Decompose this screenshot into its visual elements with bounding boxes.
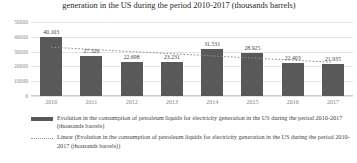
legend-item-bar[interactable]: Evolution in the consumption of petroleu… <box>31 114 351 130</box>
x-axis: 20102011201220132014201520162017 <box>31 98 353 106</box>
bar-value-label: 31.531 <box>204 41 220 47</box>
bar-value-label: 40.103 <box>43 29 59 35</box>
bar-value-label: 23.231 <box>164 54 180 60</box>
bar-value-label: 28.925 <box>244 45 260 51</box>
legend-label-trendline: Linear (Evolution in the consumption of … <box>57 133 351 149</box>
bar-slot: 21.935 <box>313 22 353 96</box>
bar-slot: 40.103 <box>31 22 71 96</box>
bar-value-label: 21.935 <box>325 56 341 62</box>
y-tick-label: 0 <box>25 93 28 99</box>
y-tick-label: 30000 <box>14 49 28 55</box>
x-tick-label: 2016 <box>273 98 313 106</box>
bar-slot: 23.231 <box>152 22 192 96</box>
x-tick-label: 2017 <box>313 98 353 106</box>
gridline <box>31 96 353 97</box>
x-tick-label: 2013 <box>152 98 192 106</box>
bar-series: 40.10327.32622.69823.23131.53128.92522.4… <box>31 22 353 96</box>
y-axis: 50000400003000020000100000 <box>0 22 30 96</box>
bar-slot: 22.403 <box>273 22 313 96</box>
bar[interactable] <box>282 63 304 96</box>
bar-value-label: 27.326 <box>83 48 99 54</box>
bar-slot: 22.698 <box>112 22 152 96</box>
bar[interactable] <box>40 37 62 96</box>
bar-swatch-icon <box>31 117 53 122</box>
bar[interactable] <box>201 49 223 96</box>
x-tick-label: 2014 <box>192 98 232 106</box>
x-tick-label: 2010 <box>31 98 71 106</box>
dotted-line-swatch-icon <box>31 136 53 141</box>
y-tick-label: 50000 <box>14 19 28 25</box>
bar-slot: 27.326 <box>71 22 111 96</box>
x-tick-label: 2011 <box>71 98 111 106</box>
bar-slot: 28.925 <box>232 22 272 96</box>
bar[interactable] <box>241 53 263 96</box>
chart-figure: generation in the US during the period 2… <box>0 0 357 163</box>
bar[interactable] <box>80 56 102 96</box>
plot-area: 50000400003000020000100000 40.10327.3262… <box>0 22 357 104</box>
bar[interactable] <box>161 62 183 96</box>
x-tick-label: 2015 <box>232 98 272 106</box>
legend-label-bar: Evolution in the consumption of petroleu… <box>57 114 351 130</box>
bar[interactable] <box>322 64 344 96</box>
chart-title: generation in the US during the period 2… <box>30 1 328 11</box>
bar-slot: 31.531 <box>192 22 232 96</box>
y-tick-label: 40000 <box>14 34 28 40</box>
bar[interactable] <box>121 62 143 96</box>
legend-item-trendline[interactable]: Linear (Evolution in the consumption of … <box>31 133 351 149</box>
x-tick-label: 2012 <box>112 98 152 106</box>
y-tick-label: 10000 <box>14 78 28 84</box>
chart-legend: Evolution in the consumption of petroleu… <box>31 114 351 153</box>
bar-value-label: 22.698 <box>124 54 140 60</box>
bar-value-label: 22.403 <box>285 55 301 61</box>
y-tick-label: 20000 <box>14 63 28 69</box>
